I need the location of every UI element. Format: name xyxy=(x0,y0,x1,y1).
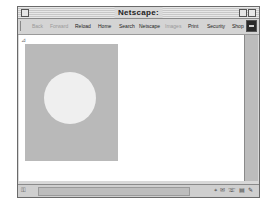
shop-button[interactable]: Shop xyxy=(232,22,244,30)
search-button[interactable]: Search xyxy=(119,22,135,30)
window-title: Netscape: xyxy=(114,7,163,18)
page-proxy-icon[interactable]: ⊿ xyxy=(21,36,26,43)
toolbar-grip-handle[interactable] xyxy=(20,21,24,31)
status-message-field xyxy=(38,187,190,196)
close-box-button[interactable] xyxy=(21,9,29,17)
netscape-throbber-icon[interactable] xyxy=(246,20,257,32)
images-button[interactable]: Images xyxy=(165,22,181,30)
vertical-scrollbar[interactable] xyxy=(244,35,258,181)
navigation-toolbar: Back Forward Reload Home Search Netscape… xyxy=(18,19,259,35)
forward-button[interactable]: Forward xyxy=(50,22,68,30)
print-button[interactable]: Print xyxy=(188,22,198,30)
edit-icon[interactable]: ✎ xyxy=(248,186,253,195)
page-content: ⊿ xyxy=(19,35,244,181)
composer-icon[interactable]: ▤ xyxy=(239,186,245,195)
navigator-icon[interactable]: ⌖ xyxy=(214,186,217,195)
security-lock-icon[interactable]: ⚿ xyxy=(21,187,26,194)
page-image xyxy=(25,44,118,161)
home-button[interactable]: Home xyxy=(98,22,111,30)
circle-shape xyxy=(44,72,96,124)
mail-icon[interactable]: ✉ xyxy=(220,186,225,195)
phone-icon[interactable]: ☏ xyxy=(228,186,236,195)
reload-button[interactable]: Reload xyxy=(75,22,91,30)
zoom-box-button[interactable] xyxy=(239,9,247,17)
collapse-box-button[interactable] xyxy=(248,9,256,17)
title-bar[interactable]: Netscape: xyxy=(18,7,259,19)
component-bar: ⌖ ✉ ☏ ▤ ✎ xyxy=(214,186,253,195)
status-bar: ⚿ ⌖ ✉ ☏ ▤ ✎ xyxy=(18,184,259,197)
security-button[interactable]: Security xyxy=(207,22,225,30)
netscape-button[interactable]: Netscape xyxy=(139,22,160,30)
back-button[interactable]: Back xyxy=(32,22,43,30)
browser-window: Netscape: Back Forward Reload Home Searc… xyxy=(17,6,260,198)
